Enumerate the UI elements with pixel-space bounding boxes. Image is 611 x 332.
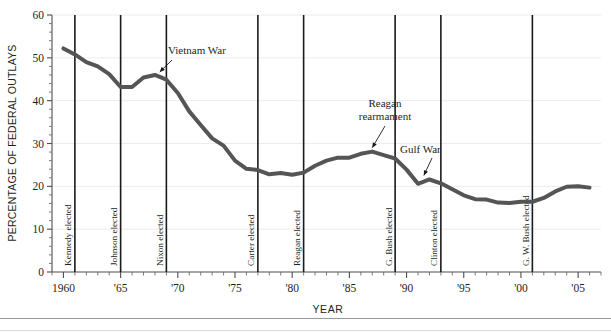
chart-annotations: Vietnam WarReaganrearmamentGulf War	[160, 44, 441, 175]
x-tick-label: '80	[285, 282, 299, 294]
x-tick-label: '00	[514, 282, 528, 294]
x-tick-label: '85	[343, 282, 357, 294]
annotation-label-gulf-war: Gulf War	[400, 143, 441, 155]
grid-lines	[52, 15, 601, 229]
x-tick-label: '95	[457, 282, 471, 294]
footer-divider-secondary	[0, 330, 611, 331]
x-tick-label: '65	[114, 282, 128, 294]
x-tick-label: 1960	[52, 282, 75, 294]
y-tick-label: 0	[38, 266, 44, 278]
y-tick-label: 50	[33, 52, 45, 64]
footer-divider	[0, 318, 611, 319]
y-tick-label: 20	[33, 180, 45, 192]
event-label: Reagan elected	[292, 210, 302, 266]
annotation-label-reagan-rearmament-line2: rearmament	[359, 110, 412, 122]
event-label: G. Bush elected	[384, 207, 394, 266]
y-tick-label: 40	[33, 95, 45, 107]
chart-figure: 0102030405060 1960'65'70'75'80'85'90'95'…	[0, 0, 611, 332]
y-axis-ticks	[47, 15, 52, 272]
y-axis-tick-labels: 0102030405060	[33, 9, 45, 278]
annotation-label-vietnam-war: Vietnam War	[168, 44, 226, 56]
event-label: G. W. Bush elected	[521, 195, 531, 266]
x-axis-ticks	[63, 272, 578, 278]
event-marker-labels: Kennedy electedJohnson electedNixon elec…	[63, 195, 531, 266]
x-tick-label: '75	[228, 282, 242, 294]
y-tick-label: 30	[33, 138, 45, 150]
x-axis-tick-labels: 1960'65'70'75'80'85'90'95'00'05	[52, 282, 585, 294]
x-tick-label: '90	[400, 282, 414, 294]
x-axis-title: YEAR	[313, 303, 344, 315]
event-label: Carter elected	[246, 214, 256, 266]
event-label: Clinton elected	[429, 210, 439, 266]
x-tick-label: '70	[171, 282, 185, 294]
y-tick-label: 10	[33, 223, 45, 235]
data-line-defense-share	[63, 48, 589, 203]
event-label: Nixon elected	[155, 214, 165, 266]
annotation-label-reagan-rearmament-line1: Reagan	[369, 97, 402, 109]
event-label: Kennedy elected	[63, 204, 73, 266]
y-axis-title: PERCENTAGE OF FEDERAL OUTLAYS	[6, 45, 18, 242]
y-tick-label: 60	[33, 9, 45, 21]
event-label: Johnson elected	[109, 207, 119, 266]
x-tick-label: '05	[571, 282, 585, 294]
defense-outlays-line-chart: 0102030405060 1960'65'70'75'80'85'90'95'…	[0, 0, 611, 332]
